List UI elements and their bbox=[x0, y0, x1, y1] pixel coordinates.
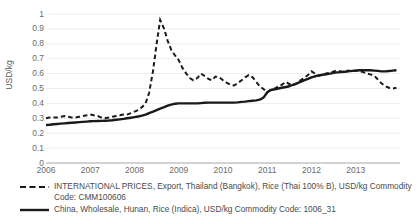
legend-item-china-wholesale: China, Wholesale, Hunan, Rice (Indica), … bbox=[0, 204, 419, 215]
legend-label-line2: Code: CMM100606 bbox=[54, 192, 412, 203]
chart-figure: USD/kg 00.10.20.30.40.50.60.70.80.91 200… bbox=[0, 0, 419, 219]
legend-item-international-prices: INTERNATIONAL PRICES, Export, Thailand (… bbox=[0, 181, 419, 202]
plot-area: USD/kg 00.10.20.30.40.50.60.70.80.91 200… bbox=[0, 0, 419, 180]
solid-line-key-icon bbox=[20, 204, 50, 215]
legend-label-line1: China, Wholesale, Hunan, Rice (Indica), … bbox=[54, 204, 336, 214]
dashed-line-key-icon bbox=[20, 181, 50, 192]
legend-label-line1: INTERNATIONAL PRICES, Export, Thailand (… bbox=[54, 181, 412, 191]
legend-label-china-wholesale: China, Wholesale, Hunan, Rice (Indica), … bbox=[54, 204, 336, 215]
chart-canvas bbox=[0, 0, 419, 180]
legend-label-international-prices: INTERNATIONAL PRICES, Export, Thailand (… bbox=[54, 181, 412, 202]
chart-legend: INTERNATIONAL PRICES, Export, Thailand (… bbox=[0, 181, 419, 219]
